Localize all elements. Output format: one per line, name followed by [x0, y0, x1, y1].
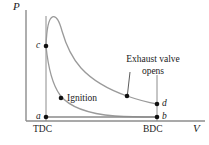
point-marker-d: [155, 102, 160, 107]
point-label-d: d: [162, 99, 167, 109]
annotation-exhaust-valve-line1: Exhaust valve: [118, 53, 188, 65]
y-axis-label: P: [13, 1, 20, 12]
pv-diagram-figure: P V TDC BDC c a d b Ignition Exhaust val…: [0, 0, 209, 145]
annotation-ignition: Ignition: [67, 92, 97, 104]
point-marker-b: [155, 115, 160, 120]
point-marker-a: [44, 115, 49, 120]
annotation-exhaust-valve-opens: Exhaust valve opens: [118, 53, 188, 77]
exhaust-valve-marker: [125, 94, 130, 99]
x-axis-label: V: [193, 123, 200, 134]
ignition-marker: [59, 96, 64, 101]
x-tick-label-bdc: BDC: [143, 125, 163, 135]
point-label-a: a: [36, 112, 41, 122]
x-tick-label-tdc: TDC: [33, 125, 52, 135]
point-label-c: c: [36, 41, 40, 51]
annotation-exhaust-valve-line2: opens: [118, 65, 188, 77]
point-marker-c: [44, 44, 49, 49]
point-label-b: b: [162, 112, 167, 122]
